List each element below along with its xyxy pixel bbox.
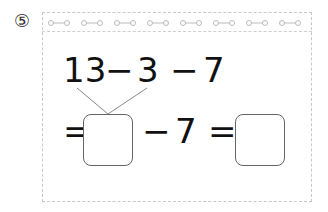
chain-decoration (48, 18, 308, 28)
chain-link-icon (114, 18, 136, 28)
chain-link-icon (48, 18, 70, 28)
term-13: 13 (63, 52, 106, 88)
chain-link-icon (279, 18, 301, 28)
operator-minus-2: − (170, 52, 199, 88)
operator-minus-1: − (105, 52, 134, 88)
chain-link-icon (81, 18, 103, 28)
answer-box-1[interactable] (83, 114, 133, 166)
operator-minus-3: − (142, 113, 171, 149)
worksheet-frame (42, 12, 312, 202)
answer-box-2[interactable] (235, 114, 285, 166)
chain-link-icon (180, 18, 202, 28)
question-number: ⑤ (12, 11, 32, 31)
term-7: 7 (203, 52, 225, 88)
equals-sign-2: = (208, 113, 237, 149)
term-3: 3 (137, 52, 159, 88)
term-7-bottom: 7 (175, 113, 197, 149)
chain-link-icon (213, 18, 235, 28)
strip-divider (42, 31, 312, 32)
chain-link-icon (147, 18, 169, 28)
chain-link-icon (246, 18, 268, 28)
